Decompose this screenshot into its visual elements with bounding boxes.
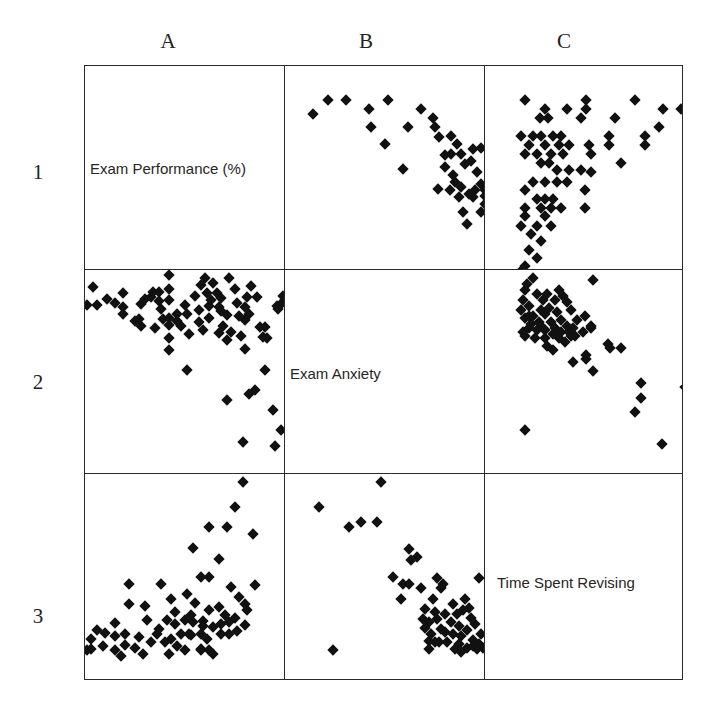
data-point-diamond bbox=[189, 290, 200, 301]
data-point-diamond bbox=[587, 365, 598, 376]
column-label-b: B bbox=[346, 31, 386, 52]
data-point-diamond bbox=[629, 406, 640, 417]
data-point-diamond bbox=[251, 291, 262, 302]
data-point-diamond bbox=[327, 644, 338, 655]
data-point-diamond bbox=[307, 108, 318, 119]
data-point-diamond bbox=[169, 606, 180, 617]
data-point-diamond bbox=[515, 220, 526, 231]
data-point-diamond bbox=[269, 440, 280, 451]
variable-label-exam-anxiety: Exam Anxiety bbox=[290, 365, 381, 382]
data-point-diamond bbox=[237, 476, 248, 487]
data-point-diamond bbox=[247, 528, 258, 539]
row-label-3: 3 bbox=[23, 606, 53, 627]
data-point-diamond bbox=[163, 332, 174, 343]
data-point-diamond bbox=[439, 161, 450, 172]
data-point-diamond bbox=[387, 571, 398, 582]
data-point-diamond bbox=[365, 121, 376, 132]
data-point-diamond bbox=[133, 631, 144, 642]
data-point-diamond bbox=[656, 438, 667, 449]
data-point-diamond bbox=[519, 94, 530, 105]
data-point-diamond bbox=[141, 614, 152, 625]
cell-a3-performance-vs-revising bbox=[84, 473, 285, 680]
data-point-diamond bbox=[187, 542, 198, 553]
data-point-diamond bbox=[371, 516, 382, 527]
data-point-diamond bbox=[403, 543, 414, 554]
row-label-1: 1 bbox=[23, 162, 53, 183]
data-point-diamond bbox=[395, 593, 406, 604]
data-point-diamond bbox=[379, 138, 390, 149]
data-point-diamond bbox=[473, 572, 484, 583]
data-point-diamond bbox=[229, 283, 240, 294]
data-point-diamond bbox=[519, 424, 530, 435]
data-point-diamond bbox=[585, 148, 596, 159]
data-point-diamond bbox=[97, 640, 108, 651]
data-point-diamond bbox=[461, 218, 472, 229]
data-point-diamond bbox=[235, 330, 246, 341]
data-point-diamond bbox=[229, 501, 240, 512]
data-point-diamond bbox=[415, 103, 426, 114]
data-point-diamond bbox=[237, 436, 248, 447]
data-point-diamond bbox=[91, 299, 102, 310]
data-point-diamond bbox=[585, 166, 596, 177]
data-point-diamond bbox=[629, 94, 640, 105]
data-point-diamond bbox=[259, 364, 270, 375]
data-point-diamond bbox=[609, 112, 620, 123]
cell-c1-revising-vs-performance bbox=[484, 65, 683, 270]
data-point-diamond bbox=[109, 630, 120, 641]
data-point-diamond bbox=[433, 131, 444, 142]
data-point-diamond bbox=[639, 139, 650, 150]
data-point-diamond bbox=[551, 164, 562, 175]
cell-a2-performance-vs-anxiety bbox=[84, 269, 285, 474]
data-point-diamond bbox=[615, 157, 626, 168]
data-point-diamond bbox=[163, 294, 174, 305]
data-point-diamond bbox=[471, 166, 482, 177]
data-point-diamond bbox=[181, 308, 192, 319]
data-point-diamond bbox=[249, 579, 260, 590]
data-point-diamond bbox=[515, 130, 526, 141]
data-point-diamond bbox=[203, 312, 214, 323]
data-point-diamond bbox=[531, 252, 542, 263]
data-point-diamond bbox=[139, 600, 150, 611]
variable-label-exam-performance: Exam Performance (%) bbox=[90, 160, 246, 177]
data-point-diamond bbox=[535, 235, 546, 246]
data-point-diamond bbox=[163, 269, 174, 280]
data-point-diamond bbox=[163, 283, 174, 294]
data-point-diamond bbox=[635, 377, 646, 388]
data-point-diamond bbox=[635, 392, 646, 403]
cell-c3-label: Time Spent Revising bbox=[484, 473, 683, 680]
data-point-diamond bbox=[340, 94, 351, 105]
data-point-diamond bbox=[343, 521, 354, 532]
data-point-diamond bbox=[397, 163, 408, 174]
data-point-diamond bbox=[355, 516, 366, 527]
data-point-diamond bbox=[137, 648, 148, 659]
data-point-diamond bbox=[87, 281, 98, 292]
data-point-diamond bbox=[657, 103, 668, 114]
data-point-diamond bbox=[181, 588, 192, 599]
data-point-diamond bbox=[322, 94, 333, 105]
data-point-diamond bbox=[375, 476, 386, 487]
data-point-diamond bbox=[189, 597, 200, 608]
data-point-diamond bbox=[123, 578, 134, 589]
data-point-diamond bbox=[653, 121, 664, 132]
data-point-diamond bbox=[149, 322, 160, 333]
data-point-diamond bbox=[615, 342, 626, 353]
data-point-diamond bbox=[183, 328, 194, 339]
cell-c2-revising-vs-anxiety bbox=[484, 269, 683, 474]
data-point-diamond bbox=[213, 553, 224, 564]
data-point-diamond bbox=[123, 598, 134, 609]
data-point-diamond bbox=[679, 381, 683, 392]
data-point-diamond bbox=[117, 287, 128, 298]
data-point-diamond bbox=[579, 202, 590, 213]
data-point-diamond bbox=[432, 183, 443, 194]
cell-a1-label: Exam Performance (%) bbox=[84, 65, 285, 270]
data-point-diamond bbox=[567, 356, 578, 367]
data-point-diamond bbox=[163, 648, 174, 659]
cell-b3-anxiety-vs-revising bbox=[284, 473, 485, 680]
data-point-diamond bbox=[119, 628, 130, 639]
data-point-diamond bbox=[155, 578, 166, 589]
data-point-diamond bbox=[382, 94, 393, 105]
data-point-diamond bbox=[545, 220, 556, 231]
data-point-diamond bbox=[415, 582, 426, 593]
data-point-diamond bbox=[523, 244, 534, 255]
data-point-diamond bbox=[203, 521, 214, 532]
